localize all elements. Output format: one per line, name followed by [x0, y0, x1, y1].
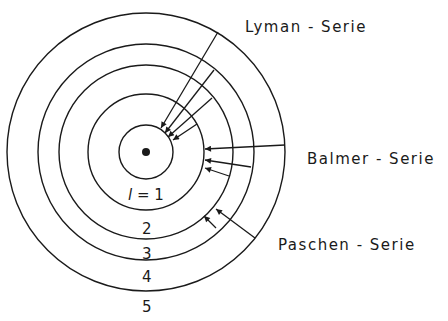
balmer-arrow-5-2 [205, 145, 285, 149]
l1-value: = 1 [132, 186, 164, 204]
shell-label-l5: 5 [142, 300, 152, 315]
shell-label-l2: 2 [142, 222, 152, 237]
balmer-arrows [205, 145, 285, 176]
paschen-arrows [204, 209, 255, 238]
shell-label-l4: 4 [142, 270, 152, 285]
paschen-series-label: Paschen - Serie [278, 238, 416, 253]
shell-label-l3: 3 [142, 247, 152, 262]
paschen-arrow-4-3 [204, 216, 216, 228]
lyman-series-label: Lyman - Serie [245, 20, 367, 35]
balmer-arrow-4-2 [205, 160, 251, 167]
balmer-series-label: Balmer - Serie [307, 152, 435, 167]
lyman-arrow-2-1 [173, 124, 197, 140]
nucleus-dot [142, 148, 150, 156]
shell-label-l1: l = 1 [128, 188, 164, 203]
lyman-arrows [161, 32, 218, 140]
balmer-arrow-3-2 [205, 168, 229, 176]
